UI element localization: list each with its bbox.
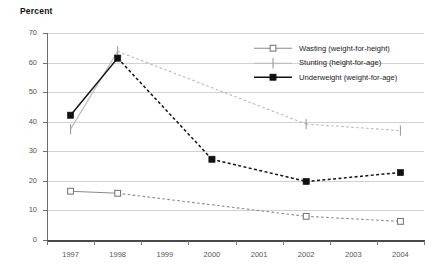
legend-item: Wasting (weight-for-height) [253,41,435,56]
series-line [118,58,212,159]
legend-label: Wasting (weight-for-height) [299,44,390,53]
legend-item: Stunting (height-for-age) [253,56,435,71]
legend-label: Underweight (weight-for-age) [299,73,397,82]
open-square-marker [253,41,293,56]
series-line [71,51,118,129]
filled-square-marker [253,70,293,85]
data-point-open-square [115,190,121,196]
data-point-filled-square [209,156,215,162]
data-point-open-square [68,188,74,194]
series-line [306,173,400,182]
vertical-tick-marker [253,56,293,71]
series-line [306,124,400,131]
data-point-filled-square [303,178,309,184]
legend-item: Underweight (weight-for-age) [253,70,435,85]
data-point-open-square [303,213,309,219]
series-line [71,58,118,115]
data-point-filled-square [67,112,73,118]
series-line [71,191,118,193]
series-line [306,216,400,221]
legend-label: Stunting (height-for-age) [299,58,381,67]
chart-container: Percent 010203040506070 1997199819992000… [0,0,442,272]
data-point-filled-square [397,169,403,175]
chart-legend: Wasting (weight-for-height)Stunting (hei… [253,41,435,85]
legend-marker [270,74,276,80]
data-point-open-square [398,218,404,224]
series-line [212,159,306,181]
data-point-filled-square [115,55,121,61]
series-line [118,193,307,216]
legend-marker [270,45,276,51]
